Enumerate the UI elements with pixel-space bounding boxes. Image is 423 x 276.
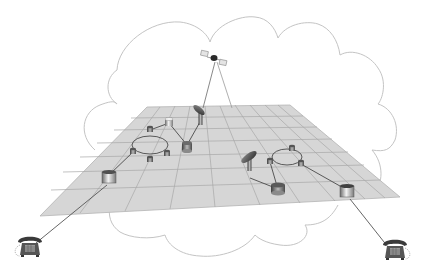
network-plane [40,105,400,216]
satellite-icon [201,50,227,65]
hub-icon [289,145,295,151]
edge-router-icon [340,184,354,197]
hub-icon [147,156,153,162]
hub-icon [298,160,304,166]
router-icon [271,183,285,196]
telephone-icon [15,237,42,257]
hub-icon [267,158,273,164]
router-icon [182,141,192,153]
router-icon [165,118,173,127]
phone-link-right [350,199,388,247]
edge-router-icon [102,170,116,183]
hub-icon [164,150,170,156]
telephone-icon [383,240,410,260]
diagram-canvas [0,0,423,276]
satellite-beams [203,62,232,108]
hub-icon [130,148,136,154]
network-diagram [0,0,423,276]
hub-icon [147,126,153,132]
